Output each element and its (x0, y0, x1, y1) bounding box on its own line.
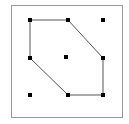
figure-container (0, 0, 129, 124)
data-point-exterior (28, 93, 32, 97)
data-point-hull-vertex (28, 56, 32, 60)
data-point-hull-vertex (66, 18, 70, 22)
convex-hull-figure (0, 0, 129, 124)
data-point-interior (64, 55, 68, 59)
data-point-hull-vertex (28, 18, 32, 22)
data-point-exterior (101, 18, 105, 22)
data-point-hull-vertex (101, 93, 105, 97)
data-point-hull-vertex (66, 93, 70, 97)
data-point-hull-vertex (101, 56, 105, 60)
